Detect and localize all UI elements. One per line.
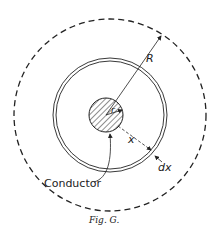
label-conductor: Conductor xyxy=(44,177,101,190)
label-dx: dx xyxy=(158,161,172,174)
coaxial-flux-diagram: R r x dx Conductor Fig. G. xyxy=(0,0,214,232)
conductor-leader-line xyxy=(94,134,110,182)
label-x: x xyxy=(127,133,135,146)
figure-caption: Fig. G. xyxy=(88,215,119,225)
label-R: R xyxy=(146,52,154,65)
radius-R-line xyxy=(106,36,161,115)
